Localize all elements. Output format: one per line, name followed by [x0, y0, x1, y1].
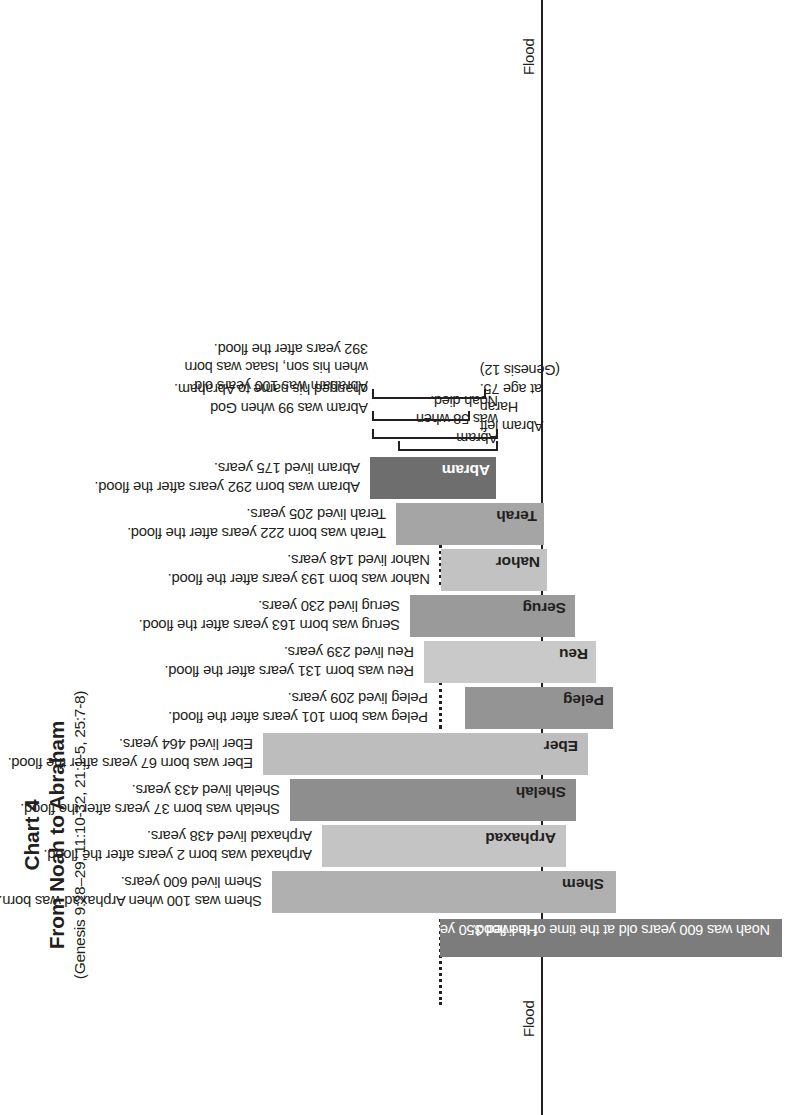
- annotation-terah: Terah was born 222 years after the flood…: [127, 504, 386, 542]
- annotation-eber-line1: Eber was born 67 years after the flood.: [8, 753, 253, 772]
- bar-eber: [263, 733, 588, 775]
- bar-label-shem: Shem: [562, 875, 604, 893]
- annotation-abram: Abram was born 292 years after the flood…: [95, 458, 360, 496]
- note-abram-left-haran: Abram left Haran at age 75. (Genesis 12): [480, 361, 560, 435]
- annotation-arphaxad-line2: Arphaxad lived 438 years.: [44, 826, 312, 845]
- annotation-peleg-line1: Peleg was born 101 years after the flood…: [168, 707, 428, 726]
- annotation-abram-line2: Abram lived 175 years.: [95, 458, 360, 477]
- annotation-reu-line1: Reu was born 131 years after the flood.: [165, 661, 414, 680]
- annotation-peleg: Peleg was born 101 years after the flood…: [168, 688, 428, 726]
- note-isaac-line2: when his son, Isaac was born: [185, 358, 368, 377]
- annotation-terah-line2: Terah lived 205 years.: [127, 504, 386, 523]
- bar-label-serug: Serug: [523, 599, 566, 617]
- flood-label-right: Flood: [520, 38, 537, 75]
- flood-label-left: Flood: [520, 1000, 537, 1037]
- bar-label-eber: Eber: [544, 737, 578, 755]
- annotation-serug-line2: Serug lived 230 years.: [139, 596, 400, 615]
- bracket-abram-58-tick-top: [398, 441, 400, 451]
- annotation-reu-line2: Reu lived 239 years.: [165, 642, 414, 661]
- annotation-peleg-line2: Peleg lived 209 years.: [168, 688, 428, 707]
- annotation-nahor-line2: Nahor lived 148 years.: [168, 550, 430, 569]
- annotation-serug-line1: Serug was born 163 years after the flood…: [139, 615, 400, 634]
- note-haran-line1: Abram left: [480, 416, 560, 435]
- chart-plot-area: Flood Flood Noah was 600 years old at th…: [0, 0, 811, 1115]
- annotation-eber: Eber was born 67 years after the flood. …: [8, 734, 253, 772]
- annotation-eber-line2: Eber lived 464 years.: [8, 734, 253, 753]
- annotation-arphaxad: Arphaxad was born 2 years after the floo…: [44, 826, 312, 864]
- annotation-arphaxad-line1: Arphaxad was born 2 years after the floo…: [44, 845, 312, 864]
- bar-label-nahor: Nahor: [496, 553, 540, 571]
- chart-stage: Chart 4 From Noah to Abraham (Genesis 9:…: [0, 0, 811, 1115]
- annotation-shelah-line1: Shelah was born 37 years after the flood…: [20, 799, 280, 818]
- bar-label-terah: Terah: [496, 507, 537, 525]
- annotation-shelah: Shelah was born 37 years after the flood…: [20, 780, 280, 818]
- annotation-abram-line1: Abram was born 292 years after the flood…: [95, 477, 360, 496]
- note-abram-99-line1: Abram was 99 when God: [174, 398, 368, 417]
- annotation-shem-line1: Shem was 100 when Arphaxad was born.: [0, 891, 262, 910]
- bar-label-abram: Abram: [442, 461, 490, 479]
- bar-label-arphaxad: Arphaxad: [485, 829, 556, 847]
- note-isaac-line3: 392 years after the flood.: [185, 339, 368, 358]
- bracket-abram-haran-tick-top: [372, 429, 374, 439]
- annotation-shelah-line2: Shelah lived 433 years.: [20, 780, 280, 799]
- note-haran-line4: (Genesis 12): [480, 361, 560, 380]
- annotation-nahor: Nahor was born 193 years after the flood…: [168, 550, 430, 588]
- note-haran-line2: Haran: [480, 398, 560, 417]
- note-haran-line3: at age 75.: [480, 379, 560, 398]
- noah-lived-after-flood-note: He lived 350 years after the flood.: [327, 922, 537, 938]
- rotated-chart-wrapper: Chart 4 From Noah to Abraham (Genesis 9:…: [0, 0, 811, 1115]
- bar-label-reu: Reu: [559, 645, 588, 663]
- note-isaac-born: Abraham was 100 years old when his son, …: [185, 339, 368, 395]
- bracket-abram-99-tick-top: [372, 411, 374, 421]
- bar-label-shelah: Shelah: [516, 783, 566, 801]
- note-isaac-line1: Abraham was 100 years old: [185, 376, 368, 395]
- annotation-nahor-line1: Nahor was born 193 years after the flood…: [168, 569, 430, 588]
- noah-death-dotted-line-mid: [439, 681, 442, 729]
- annotation-shem: Shem was 100 when Arphaxad was born. She…: [0, 872, 262, 910]
- bracket-isaac-tick-top: [372, 389, 374, 399]
- annotation-shem-line2: Shem lived 600 years.: [0, 872, 262, 891]
- bar-label-peleg: Peleg: [563, 691, 604, 709]
- bracket-abram-58: [398, 450, 498, 452]
- annotation-reu: Reu was born 131 years after the flood. …: [165, 642, 414, 680]
- annotation-serug: Serug was born 163 years after the flood…: [139, 596, 400, 634]
- annotation-terah-line1: Terah was born 222 years after the flood…: [127, 523, 386, 542]
